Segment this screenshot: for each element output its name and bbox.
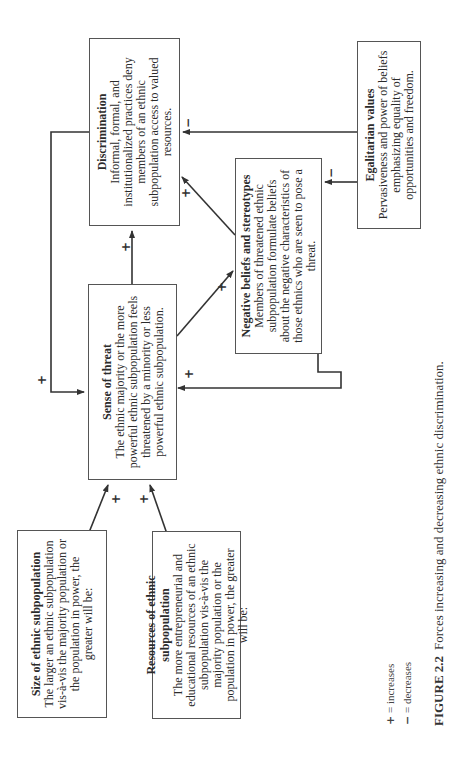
rotated-figure: Discrimination Informal, formal, and ins… xyxy=(0,0,457,768)
resources-of-subpopulation-box: Resources of ethnic subpopulation The mo… xyxy=(152,531,241,719)
figure-caption-text: Forces increasing and decreasing ethnic … xyxy=(431,361,446,650)
negative-beliefs-title: Negative beliefs and stereotypes xyxy=(239,167,253,345)
sign-resources-to-threat: + xyxy=(138,494,150,504)
figure-label: FIGURE 2.2 xyxy=(431,656,446,726)
size-of-subpopulation-box: Size of ethnic subpopulation The larger … xyxy=(17,530,107,718)
size-of-subpopulation-body: The larger an ethnic subpopulation vis-à… xyxy=(43,539,95,709)
legend-plus-symbol: + xyxy=(384,716,397,725)
figure-caption: FIGURE 2.2Forces increasing and decreasi… xyxy=(431,361,447,726)
legend-minus-label: = decreases xyxy=(401,662,413,713)
sign-threat-to-discrimination: + xyxy=(120,242,132,252)
legend: + = increases − = decreases xyxy=(382,662,416,725)
sign-discrimination-to-threat: + xyxy=(36,375,48,385)
legend-item-decreases: − = decreases xyxy=(399,662,416,725)
arrow-discrimination-to-threat xyxy=(51,132,89,392)
arrow-beliefs-to-threat xyxy=(178,354,341,388)
sign-beliefs-to-discrimination: + xyxy=(180,188,192,198)
legend-plus-label: = increases xyxy=(384,664,396,713)
sign-threat-to-beliefs: + xyxy=(216,282,228,292)
legend-minus-symbol: − xyxy=(401,716,414,725)
resources-of-subpopulation-title: Resources of ethnic subpopulation xyxy=(144,540,172,710)
discrimination-title: Discrimination xyxy=(95,47,109,217)
resources-of-subpopulation-body: The more entrepreneurial and educational… xyxy=(172,540,250,710)
size-of-subpopulation-title: Size of ethnic subpopulation xyxy=(29,539,43,709)
sense-of-threat-title: Sense of threat xyxy=(100,293,114,471)
negative-beliefs-body: Members of threatened ethnic subpopulati… xyxy=(253,167,318,345)
sign-size-to-threat: + xyxy=(110,494,122,504)
egalitarian-values-title: Egalitarian values xyxy=(363,50,377,220)
sign-egalitarian-to-discrimination: − xyxy=(182,118,194,128)
arrow-threat-to-beliefs xyxy=(177,271,233,336)
legend-item-increases: + = increases xyxy=(382,662,399,725)
discrimination-body: Informal, formal, and institutionalized … xyxy=(109,47,174,217)
discrimination-box: Discrimination Informal, formal, and ins… xyxy=(89,38,180,226)
negative-beliefs-box: Negative beliefs and stereotypes Members… xyxy=(235,158,322,354)
egalitarian-values-body: Pervasiveness and power of beliefs empha… xyxy=(377,50,416,220)
sense-of-threat-body: The ethnic majority or the more powerful… xyxy=(114,293,166,471)
arrow-beliefs-to-discrimination xyxy=(182,177,235,235)
sign-beliefs-to-threat: + xyxy=(183,369,195,379)
sense-of-threat-box: Sense of threat The ethnic majority or t… xyxy=(88,284,177,480)
egalitarian-values-box: Egalitarian values Pervasiveness and pow… xyxy=(357,41,421,229)
sign-egalitarian-to-beliefs: − xyxy=(325,168,337,178)
